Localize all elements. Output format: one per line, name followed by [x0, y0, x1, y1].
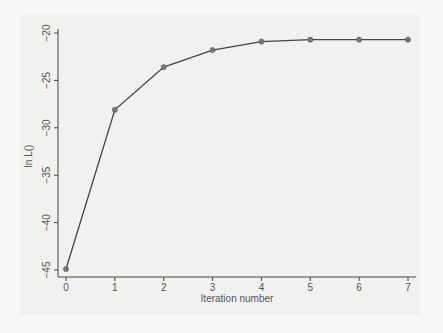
- y-tick-label: −20: [41, 24, 52, 41]
- data-point-marker: [112, 107, 117, 112]
- data-point-marker: [161, 65, 166, 70]
- y-tick-label: −25: [41, 71, 52, 88]
- x-tick-label: 2: [161, 282, 167, 293]
- x-tick-label: 7: [405, 282, 411, 293]
- x-tick-label: 0: [63, 282, 69, 293]
- x-axis-title: Iteration number: [201, 293, 274, 304]
- data-point-marker: [259, 39, 264, 44]
- y-axis: −20−25−30−35−40−45: [41, 24, 58, 278]
- data-point-marker: [210, 47, 215, 52]
- data-point-marker: [63, 266, 68, 271]
- y-tick-label: −40: [41, 214, 52, 231]
- x-axis: 01234567: [58, 277, 416, 293]
- data-point-marker: [357, 37, 362, 42]
- x-tick-label: 6: [356, 282, 362, 293]
- x-tick-label: 4: [259, 282, 265, 293]
- x-tick-label: 3: [210, 282, 216, 293]
- y-tick-label: −35: [41, 166, 52, 183]
- data-point-marker: [405, 37, 410, 42]
- x-tick-label: 1: [112, 282, 118, 293]
- y-tick-label: −45: [41, 261, 52, 278]
- y-tick-label: −30: [41, 119, 52, 136]
- x-tick-label: 5: [308, 282, 314, 293]
- line-chart: −20−25−30−35−40−45 01234567 Iteration nu…: [0, 0, 443, 333]
- chart-container: −20−25−30−35−40−45 01234567 Iteration nu…: [0, 0, 443, 333]
- y-axis-title: ln L(): [23, 145, 34, 168]
- series-line: [63, 37, 410, 272]
- data-point-marker: [308, 37, 313, 42]
